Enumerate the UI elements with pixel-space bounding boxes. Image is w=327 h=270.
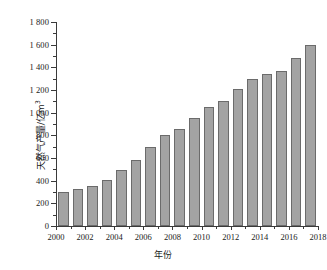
x-tick-major <box>85 226 86 230</box>
x-tick-major <box>172 226 173 230</box>
bar-2004 <box>102 180 112 226</box>
y-tick-minor <box>53 101 56 102</box>
y-axis-line <box>56 22 57 226</box>
x-tick-minor <box>158 226 159 229</box>
x-tick-label: 2010 <box>193 232 210 242</box>
y-tick-major <box>51 203 56 204</box>
y-tick-label: 1 000 <box>29 108 49 118</box>
x-tick-major <box>231 226 232 230</box>
y-tick-label: 1 200 <box>29 85 49 95</box>
x-axis-title: 年份 <box>0 248 326 261</box>
x-tick-minor <box>71 226 72 229</box>
y-tick-minor <box>53 124 56 125</box>
x-tick-major <box>202 226 203 230</box>
y-tick-major <box>51 158 56 159</box>
bar-2013 <box>233 89 243 226</box>
y-tick-major <box>51 90 56 91</box>
y-tick-major <box>51 135 56 136</box>
x-tick-label: 2018 <box>310 232 327 242</box>
bar-2012 <box>218 101 228 226</box>
x-tick-label: 2008 <box>164 232 181 242</box>
y-tick-minor <box>53 192 56 193</box>
y-tick-major <box>51 22 56 23</box>
bar-2005 <box>116 170 126 226</box>
y-tick-minor <box>53 169 56 170</box>
x-tick-label: 2000 <box>48 232 65 242</box>
x-tick-label: 2012 <box>222 232 239 242</box>
x-tick-minor <box>187 226 188 229</box>
bar-2014 <box>247 79 257 226</box>
bar-2003 <box>87 186 97 226</box>
x-tick-minor <box>216 226 217 229</box>
y-tick-label: 400 <box>36 176 49 186</box>
bar-2017 <box>291 58 301 226</box>
y-tick-label: 1 600 <box>29 40 49 50</box>
y-tick-major <box>51 45 56 46</box>
bar-2008 <box>160 135 170 226</box>
x-tick-major <box>143 226 144 230</box>
x-tick-major <box>56 226 57 230</box>
bar-2007 <box>145 147 155 226</box>
y-tick-minor <box>53 56 56 57</box>
x-tick-major <box>289 226 290 230</box>
x-tick-major <box>260 226 261 230</box>
y-tick-minor <box>53 79 56 80</box>
bar-2016 <box>276 71 286 226</box>
y-tick-label: 1 800 <box>29 17 49 27</box>
y-tick-label: 200 <box>36 198 49 208</box>
y-tick-major <box>51 181 56 182</box>
bar-2015 <box>262 74 272 226</box>
bar-2018 <box>305 45 315 226</box>
bar-2010 <box>189 118 199 226</box>
y-tick-label: 0 <box>45 221 49 231</box>
x-tick-minor <box>129 226 130 229</box>
bar-2002 <box>73 189 83 226</box>
x-tick-major <box>114 226 115 230</box>
x-tick-minor <box>100 226 101 229</box>
y-tick-minor <box>53 215 56 216</box>
y-axis-title-superscript: 3 <box>34 100 42 104</box>
y-tick-major <box>51 113 56 114</box>
plot-area: 02004006008001 0001 2001 4001 6001 800 2… <box>56 22 318 226</box>
x-tick-minor <box>274 226 275 229</box>
x-tick-minor <box>303 226 304 229</box>
x-tick-label: 2016 <box>280 232 297 242</box>
x-tick-minor <box>245 226 246 229</box>
y-tick-minor <box>53 147 56 148</box>
y-tick-label: 800 <box>36 130 49 140</box>
y-tick-minor <box>53 33 56 34</box>
x-tick-label: 2002 <box>77 232 94 242</box>
y-tick-major <box>51 67 56 68</box>
x-tick-label: 2014 <box>251 232 268 242</box>
x-tick-label: 2006 <box>135 232 152 242</box>
bar-2011 <box>204 107 214 226</box>
bar-2001 <box>58 192 68 226</box>
x-tick-major <box>318 226 319 230</box>
y-tick-label: 1 400 <box>29 62 49 72</box>
x-tick-label: 2004 <box>106 232 123 242</box>
bar-2009 <box>174 129 184 226</box>
y-tick-label: 600 <box>36 153 49 163</box>
bar-2006 <box>131 160 141 226</box>
